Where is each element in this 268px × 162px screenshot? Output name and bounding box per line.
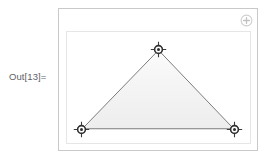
plus-circle-icon[interactable] (240, 14, 253, 27)
graphics-selection-frame[interactable] (58, 8, 258, 151)
locator-handle-apex[interactable] (150, 41, 167, 58)
locator-handle-bottom-right[interactable] (226, 121, 243, 138)
locator-handle-bottom-left[interactable] (73, 121, 90, 138)
triangle-shape (82, 50, 233, 129)
out-cell-label: Out[13]= (9, 71, 47, 83)
notebook-output-cell: Out[13]= (0, 0, 268, 162)
